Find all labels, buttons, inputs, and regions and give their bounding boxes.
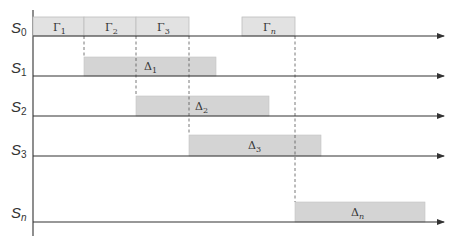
timing-diagram: Γ1 Γ2 Γ3 Γn Δ1 Δ2 Δ3 Δn S0 S1 S2 S3 Sn bbox=[0, 0, 454, 247]
row-labels: S0 S1 S2 S3 Sn bbox=[11, 19, 27, 223]
row-label-s3: S3 bbox=[11, 141, 27, 160]
row-label-sn: Sn bbox=[11, 204, 27, 223]
gamma-boxes: Γ1 Γ2 Γ3 Γn bbox=[33, 17, 295, 36]
row-label-s1: S1 bbox=[11, 59, 27, 78]
row-label-s0: S0 bbox=[11, 19, 27, 38]
delta-boxes: Δ1 Δ2 Δ3 Δn bbox=[84, 57, 425, 222]
row-label-s2: S2 bbox=[11, 98, 27, 117]
